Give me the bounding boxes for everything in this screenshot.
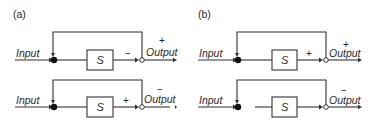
arrow-icon (235, 53, 239, 57)
summing-node-filled (51, 57, 57, 63)
panel-label-a: (a) (13, 8, 26, 20)
forward-sign: + (306, 48, 312, 59)
arrow-icon (173, 58, 177, 62)
panel-a: (a) Input S − + Output Input (13, 8, 179, 117)
summing-node-filled (51, 104, 57, 110)
output-label: Output (146, 46, 179, 58)
panel-b-loop-1: Input S + + Output (198, 32, 362, 70)
block-label: S (281, 54, 289, 66)
arrow-icon (135, 105, 139, 110)
block-label: S (97, 54, 105, 66)
output-label: Output (329, 94, 362, 106)
arrow-icon (51, 53, 55, 57)
forward-sign: − (125, 48, 131, 59)
arrow-icon (51, 100, 55, 104)
arrow-icon (175, 105, 177, 109)
arrow-icon (319, 58, 323, 63)
output-node-open (140, 58, 145, 63)
panel-a-loop-1: Input S − + Output (15, 32, 179, 70)
output-label: Output (329, 47, 362, 59)
arrow-icon (135, 58, 139, 63)
output-sign: + (159, 35, 165, 46)
arrow-icon (235, 100, 239, 104)
output-node-open (324, 105, 329, 110)
output-node-open (140, 105, 145, 110)
output-label: Output (144, 93, 177, 105)
input-label: Input (199, 47, 223, 59)
input-label: Input (199, 94, 223, 106)
panel-label-b: (b) (198, 8, 211, 20)
arrow-icon (319, 105, 323, 110)
panel-b-loop-2: Input S − Output (198, 80, 362, 117)
block-label: S (281, 101, 289, 113)
panel-b: (b) Input S + + Output Input (198, 8, 362, 117)
feedback-loop-diagram: (a) Input S − + Output Input (0, 0, 378, 122)
panel-a-loop-2: Input S + − Output (15, 80, 177, 117)
summing-node-filled (235, 57, 241, 63)
input-label: Input (16, 94, 40, 106)
input-label: Input (16, 47, 40, 59)
output-node-open (324, 58, 329, 63)
block-label: S (97, 101, 105, 113)
summing-node-filled (235, 104, 241, 110)
forward-sign: + (123, 95, 129, 106)
